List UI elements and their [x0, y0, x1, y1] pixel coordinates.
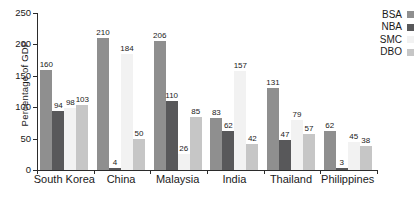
bar-value-label: 103	[76, 96, 89, 104]
bar-smc[interactable]	[291, 120, 303, 170]
bar-column[interactable]: 62	[222, 13, 234, 170]
bar-bsa[interactable]	[210, 118, 222, 170]
bar-column[interactable]: 38	[360, 13, 372, 170]
bar-smc[interactable]	[348, 142, 360, 170]
x-axis-category-label: China	[107, 173, 136, 185]
x-axis-category-label: Philippines	[321, 173, 374, 185]
bar-column[interactable]: 98	[64, 13, 76, 170]
x-axis-tick-mark	[94, 170, 95, 174]
bar-column[interactable]: 62	[324, 13, 336, 170]
bar-column[interactable]: 4	[109, 13, 121, 170]
bar-bsa[interactable]	[97, 38, 109, 170]
x-axis-tick-mark	[150, 170, 151, 174]
bar-smc[interactable]	[234, 71, 246, 170]
bar-column[interactable]: 210	[97, 13, 109, 170]
bar-value-label: 79	[293, 111, 302, 119]
bar-nba[interactable]	[336, 168, 348, 170]
x-axis-tick-mark	[37, 170, 38, 174]
y-axis-tick-label: 100	[15, 102, 31, 112]
bar-column[interactable]: 103	[76, 13, 88, 170]
bar-column[interactable]: 85	[190, 13, 202, 170]
bar-column[interactable]: 206	[154, 13, 166, 170]
bar-column[interactable]: 131	[267, 13, 279, 170]
bar-value-label: 94	[54, 102, 63, 110]
legend-item-label: BSA	[382, 10, 402, 20]
bar-column[interactable]: 79	[291, 13, 303, 170]
bar-value-label: 157	[234, 62, 247, 70]
bar-smc[interactable]	[121, 54, 133, 170]
legend-item-label: DBO	[380, 47, 402, 57]
legend-item-nba[interactable]: NBA	[380, 22, 414, 34]
legend-swatch-dbo	[407, 49, 414, 56]
bar-chart: Percentage of GDP BSANBASMCDBO 050100150…	[0, 0, 418, 197]
y-axis-tick-label: 150	[15, 71, 31, 81]
y-axis-tick-label: 0	[26, 165, 31, 175]
x-axis-category-label: Thailand	[270, 173, 312, 185]
legend-item-label: SMC	[380, 35, 402, 45]
bar-value-label: 160	[40, 61, 53, 69]
y-axis-tick-mark	[33, 139, 37, 140]
bar-column[interactable]: 42	[246, 13, 258, 170]
bar-group: 836215742	[210, 13, 258, 170]
bar-column[interactable]: 160	[40, 13, 52, 170]
bar-bsa[interactable]	[324, 131, 336, 170]
bar-nba[interactable]	[279, 140, 291, 170]
bar-value-label: 3	[339, 159, 343, 167]
bar-dbo[interactable]	[303, 134, 315, 170]
y-axis-tick-mark	[33, 13, 37, 14]
x-axis-tick-mark	[207, 170, 208, 174]
bar-nba[interactable]	[166, 101, 178, 170]
bar-column[interactable]: 94	[52, 13, 64, 170]
bar-column[interactable]: 157	[234, 13, 246, 170]
bar-column[interactable]: 26	[178, 13, 190, 170]
bar-value-label: 57	[305, 125, 314, 133]
bar-value-label: 38	[361, 137, 370, 145]
bar-value-label: 206	[153, 32, 166, 40]
bar-dbo[interactable]	[133, 139, 145, 170]
bar-smc[interactable]	[178, 154, 190, 170]
bar-column[interactable]: 110	[166, 13, 178, 170]
bar-nba[interactable]	[52, 111, 64, 170]
bar-dbo[interactable]	[76, 105, 88, 170]
legend-swatch-smc	[407, 36, 414, 43]
bar-bsa[interactable]	[267, 88, 279, 170]
bar-bsa[interactable]	[154, 41, 166, 170]
bar-value-label: 98	[66, 99, 75, 107]
y-axis-tick-mark	[33, 76, 37, 77]
bar-value-label: 210	[96, 29, 109, 37]
x-axis-category-label: India	[222, 173, 246, 185]
legend-item-label: NBA	[381, 22, 402, 32]
chart-legend: BSANBASMCDBO	[380, 9, 414, 59]
bar-value-label: 62	[224, 122, 233, 130]
x-axis-tick-mark	[264, 170, 265, 174]
bar-column[interactable]: 47	[279, 13, 291, 170]
bar-nba[interactable]	[109, 168, 121, 171]
bar-value-label: 26	[179, 145, 188, 153]
bar-dbo[interactable]	[360, 146, 372, 170]
bar-group: 1609498103	[40, 13, 88, 170]
bar-column[interactable]: 50	[133, 13, 145, 170]
bar-dbo[interactable]	[190, 117, 202, 170]
bar-value-label: 131	[266, 79, 279, 87]
bar-value-label: 42	[248, 135, 257, 143]
y-axis-tick-mark	[33, 44, 37, 45]
bar-value-label: 45	[349, 133, 358, 141]
bar-group: 2061102685	[154, 13, 202, 170]
bar-column[interactable]: 3	[336, 13, 348, 170]
y-axis-tick-mark	[33, 107, 37, 108]
bar-dbo[interactable]	[246, 144, 258, 170]
bar-column[interactable]: 184	[121, 13, 133, 170]
legend-item-smc[interactable]: SMC	[380, 34, 414, 46]
y-axis-tick-label: 200	[15, 40, 31, 50]
legend-item-bsa[interactable]: BSA	[380, 9, 414, 21]
bar-column[interactable]: 57	[303, 13, 315, 170]
bar-column[interactable]: 83	[210, 13, 222, 170]
bar-nba[interactable]	[222, 131, 234, 170]
bar-column[interactable]: 45	[348, 13, 360, 170]
bar-value-label: 47	[281, 131, 290, 139]
y-axis-tick-label: 250	[15, 8, 31, 18]
bar-group: 6234538	[324, 13, 372, 170]
bar-bsa[interactable]	[40, 70, 52, 170]
bar-smc[interactable]	[64, 108, 76, 170]
legend-item-dbo[interactable]: DBO	[380, 47, 414, 59]
